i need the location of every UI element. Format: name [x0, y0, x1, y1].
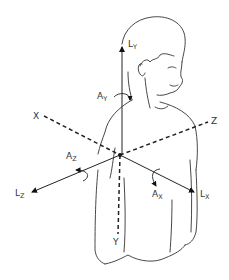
torso-left: [95, 170, 105, 264]
z-axis-label: Z: [211, 116, 217, 126]
shoulder-right: [160, 102, 197, 170]
eye: [168, 67, 176, 68]
hair-line: [140, 54, 174, 66]
y-axis-line: [118, 155, 120, 234]
axes-diagram: X Z Y LY AY AZ LZ AX LX: [0, 0, 229, 280]
human-figure-sketch: [95, 17, 197, 264]
torso-bottom: [105, 245, 185, 264]
torso-crease-2: [170, 200, 172, 252]
az-rotation-arrow: [76, 170, 88, 181]
torso-crease-1: [124, 178, 125, 252]
z-axis-line: [120, 122, 208, 155]
y-axis-label: Y: [112, 237, 119, 247]
lx-vector: [120, 155, 194, 192]
neck-front: [145, 78, 150, 108]
mouth: [170, 85, 178, 86]
ax-rotation-arrow: [153, 169, 160, 186]
x-axis-label: X: [33, 111, 39, 121]
collar: [155, 106, 168, 109]
lz-label: LZ: [15, 188, 25, 200]
ax-label: AX: [152, 189, 163, 201]
ly-label: LY: [128, 39, 137, 51]
ay-label: AY: [97, 91, 107, 103]
az-label: AZ: [66, 151, 77, 163]
ear: [138, 64, 145, 76]
lx-label: LX: [200, 189, 210, 201]
torso-crease-3: [190, 160, 192, 232]
